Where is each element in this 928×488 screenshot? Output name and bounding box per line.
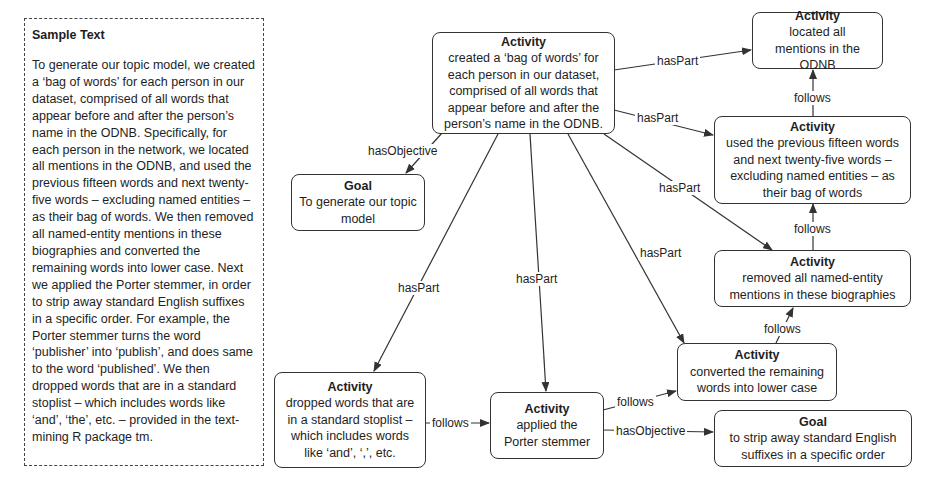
label-has-objective-strip: hasObjective <box>614 424 687 438</box>
label-has-part-located: hasPart <box>655 54 700 68</box>
node-kind: Activity <box>719 254 906 271</box>
label-follows-removed-used: follows <box>792 222 833 236</box>
node-text: used the previous fifteen words and next… <box>723 135 902 201</box>
edge-has-part-converted <box>568 134 684 343</box>
node-text: located all mentions in the ODNB <box>763 24 872 74</box>
node-text: to strip away standard English suffixes … <box>719 430 907 463</box>
label-follows-converted-removed: follows <box>762 322 803 336</box>
node-kind: Activity <box>283 379 417 396</box>
node-kind: Goal <box>296 178 420 195</box>
node-text: To generate our topic model <box>296 194 420 227</box>
label-follows-used-located: follows <box>792 91 833 105</box>
label-follows-dropped-porter: follows <box>430 416 471 430</box>
node-kind: Activity <box>684 347 830 364</box>
node-converted-lower-case: Activity converted the remaining words i… <box>677 343 837 401</box>
label-has-part-removed: hasPart <box>657 181 702 195</box>
node-kind: Activity <box>503 401 591 418</box>
node-used-previous-words: Activity used the previous fifteen words… <box>714 116 911 204</box>
node-kind: Activity <box>723 119 902 136</box>
node-text: applied the Porter stemmer <box>503 417 591 450</box>
label-has-part-converted: hasPart <box>638 246 683 260</box>
node-text: created a ‘bag of words’ for each person… <box>437 50 610 133</box>
label-has-part-dropped: hasPart <box>396 281 441 295</box>
label-has-part-porter: hasPart <box>514 272 559 286</box>
edge-has-part-dropped <box>374 134 498 371</box>
node-removed-named-entities: Activity removed all named-entity mentio… <box>714 250 911 307</box>
node-kind: Activity <box>437 34 610 51</box>
node-dropped-stoplist: Activity dropped words that are in a sta… <box>274 372 426 468</box>
node-text: dropped words that are in a standard sto… <box>283 395 417 461</box>
node-text: removed all named-entity mentions in the… <box>719 270 906 303</box>
node-goal-topic-model: Goal To generate our topic model <box>291 174 425 231</box>
label-follows-porter-converted: follows <box>615 395 656 409</box>
node-kind: Activity <box>763 8 872 25</box>
node-text: converted the remaining words into lower… <box>684 364 830 397</box>
label-has-part-used: hasPart <box>635 111 680 125</box>
node-located-mentions: Activity located all mentions in the ODN… <box>752 12 883 69</box>
node-goal-strip-suffixes: Goal to strip away standard English suff… <box>714 410 912 467</box>
node-kind: Goal <box>719 414 907 431</box>
node-porter-stemmer: Activity applied the Porter stemmer <box>490 392 604 459</box>
edge-has-part-porter <box>530 134 546 391</box>
label-has-objective-goal: hasObjective <box>366 144 439 158</box>
node-main-activity: Activity created a ‘bag of words’ for ea… <box>432 32 615 134</box>
